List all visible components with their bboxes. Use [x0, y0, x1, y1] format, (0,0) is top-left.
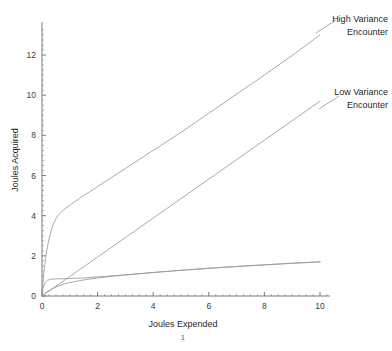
tick-labels-group: 0246810024681012 — [27, 50, 325, 311]
x-tick-label: 4 — [151, 301, 156, 311]
high-variance-label-line2: Encounter — [347, 27, 388, 37]
y-tick-label: 8 — [31, 130, 36, 140]
figure-note: 1 — [181, 334, 185, 341]
annotations-group: High Variance Encounter Low Variance Enc… — [332, 14, 388, 110]
data-series-group — [42, 20, 339, 296]
series-line — [42, 35, 320, 291]
y-tick-label: 0 — [31, 291, 36, 301]
x-axis-title: Joules Expended — [148, 319, 217, 329]
x-tick-label: 8 — [262, 301, 267, 311]
tick-marks-group — [42, 30, 327, 296]
y-tick-label: 6 — [31, 171, 36, 181]
axes-group — [42, 22, 330, 296]
x-tick-label: 2 — [95, 301, 100, 311]
high-variance-label-line1: High Variance — [332, 14, 388, 24]
y-axis-title: Joules Acquired — [10, 128, 20, 192]
x-tick-label: 0 — [40, 301, 45, 311]
low-variance-leader-line — [319, 96, 339, 109]
x-tick-label: 6 — [206, 301, 211, 311]
y-tick-label: 4 — [31, 211, 36, 221]
series-line — [42, 101, 320, 296]
chart-figure: 0246810024681012 Joules Expended 1 Joule… — [0, 0, 392, 351]
y-tick-label: 2 — [31, 251, 36, 261]
low-variance-label-line2: Encounter — [347, 100, 388, 110]
y-tick-label: 12 — [27, 50, 37, 60]
low-variance-label-line1: Low Variance — [334, 87, 388, 97]
x-tick-label: 10 — [315, 301, 325, 311]
plot-canvas: 0246810024681012 Joules Expended 1 Joule… — [0, 0, 392, 351]
y-tick-label: 10 — [27, 90, 37, 100]
